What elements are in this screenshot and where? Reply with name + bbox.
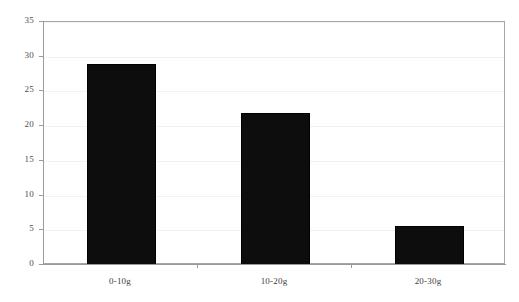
y-axis-tick-label: 5: [0, 224, 34, 233]
y-tick-mark: [39, 90, 43, 91]
y-axis-tick-label: 15: [0, 155, 34, 164]
gridline: [44, 57, 504, 58]
y-tick-mark: [39, 160, 43, 161]
y-axis-tick-label: 10: [0, 190, 34, 199]
y-axis-tick-label: 30: [0, 51, 34, 60]
y-axis-line: [43, 21, 44, 265]
x-axis-line: [43, 264, 506, 265]
plot-area: [43, 21, 505, 264]
y-tick-mark: [39, 21, 43, 22]
y-tick-mark: [39, 195, 43, 196]
chart-screenshot: 05101520253035 0-10g10-20g20-30g: [0, 0, 519, 302]
y-axis-tick-label: 25: [0, 85, 34, 94]
x-axis-tick-label: 20-30g: [351, 276, 505, 287]
y-tick-mark: [39, 56, 43, 57]
x-tick-mark: [351, 264, 352, 268]
y-tick-mark: [39, 264, 43, 265]
bar-chart: 05101520253035 0-10g10-20g20-30g: [0, 0, 519, 302]
y-axis-tick-label: 20: [0, 120, 34, 129]
y-axis-tick-label: 0: [0, 259, 34, 268]
x-axis-tick-label: 10-20g: [197, 276, 351, 287]
x-tick-mark: [197, 264, 198, 268]
y-axis-tick-label: 35: [0, 16, 34, 25]
x-axis-tick-label: 0-10g: [43, 276, 197, 287]
bar: [87, 64, 156, 265]
bar: [241, 113, 310, 265]
bar: [395, 226, 464, 265]
y-tick-mark: [39, 229, 43, 230]
y-tick-mark: [39, 125, 43, 126]
gridline: [44, 22, 504, 23]
